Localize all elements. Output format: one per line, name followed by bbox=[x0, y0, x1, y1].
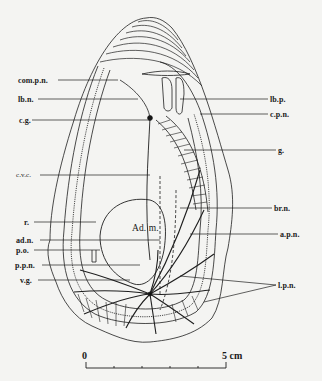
gill bbox=[156, 116, 208, 212]
leader-lines bbox=[32, 80, 278, 302]
label-v-g: v.g. bbox=[20, 276, 32, 285]
oyster-anatomy-diagram bbox=[0, 0, 322, 381]
label-c-g: c.g. bbox=[19, 116, 31, 125]
label-l-p-n: l.p.n. bbox=[278, 281, 296, 290]
label-lb-p: lb.p. bbox=[270, 95, 286, 104]
label-ad-n: ad.n. bbox=[16, 236, 33, 245]
label-c-p-n: c.p.n. bbox=[270, 110, 289, 119]
label-p-o: p.o. bbox=[16, 246, 29, 255]
label-r: r. bbox=[24, 218, 29, 227]
label-com-p-n: com.p.n. bbox=[18, 76, 48, 85]
label-br-n: br.n. bbox=[274, 204, 290, 213]
label-g: g. bbox=[278, 146, 284, 155]
label-p-p-n: p.p.n. bbox=[15, 261, 35, 270]
label-lb-n: lb.n. bbox=[18, 95, 34, 104]
label-c-v-c: c.v.c. bbox=[16, 171, 31, 180]
labial-palps bbox=[142, 71, 190, 76]
label-a-p-n: a.p.n. bbox=[280, 230, 300, 239]
visceral-nerves bbox=[74, 170, 214, 334]
growth-lines bbox=[100, 21, 202, 86]
scale-end-label: 5 cm bbox=[222, 350, 242, 361]
scale-start-label: 0 bbox=[82, 350, 87, 361]
scale-bar bbox=[86, 362, 226, 368]
shell-outline bbox=[48, 17, 233, 342]
label-adductor-muscle: Ad. m. bbox=[132, 224, 159, 233]
